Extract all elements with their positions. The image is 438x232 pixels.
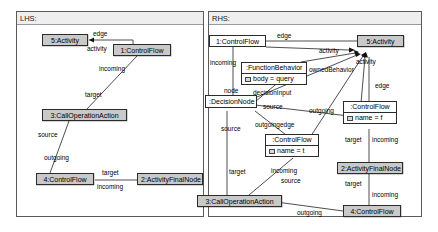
rhs-panel-title: RHS: xyxy=(212,13,230,24)
lhs-panel-header xyxy=(17,12,203,25)
rhs-label-target-left: target xyxy=(229,168,246,176)
rhs-functionbehavior-name: :FunctionBehavior xyxy=(242,63,306,74)
lhs-panel-title: LHS: xyxy=(20,13,37,24)
rhs-node-activityfinalnode-2[interactable]: 2:ActivityFinalNode xyxy=(337,162,403,174)
rhs-label-ownedbehavior: ownedBehavior xyxy=(309,66,354,74)
rhs-controlflow-t-attribute: name = t xyxy=(266,146,318,156)
lhs-node-controlflow-4[interactable]: 4:ControlFlow xyxy=(36,173,94,185)
rhs-node-controlflow-4[interactable]: 4:ControlFlow xyxy=(343,205,401,217)
rhs-label-edge-top: edge xyxy=(277,32,291,40)
rhs-label-incoming-right-1: incoming xyxy=(372,136,398,144)
lhs-label-activity: activity xyxy=(87,45,107,53)
attribute-bullet-icon xyxy=(245,77,251,82)
rhs-node-controlflow-1[interactable]: 1:ControlFlow xyxy=(209,35,266,47)
rhs-label-source-mid: source xyxy=(263,103,283,111)
rhs-label-outgoingedge: outgoingedge xyxy=(255,121,294,129)
lhs-node-activityfinalnode-2[interactable]: 2:ActivityFinalNode xyxy=(137,173,203,185)
lhs-label-incoming-1: incoming xyxy=(99,65,125,73)
rhs-panel: RHS: xyxy=(208,11,422,217)
rhs-label-incoming-mid: incoming xyxy=(271,167,297,175)
rhs-panel-body: 1:ControlFlow 5:Activity :FunctionBehavi… xyxy=(209,25,421,216)
rhs-label-activity-1: activity xyxy=(319,47,339,55)
diagram-root: LHS: 5:Activity 1:ControlFlow 3:CallOper… xyxy=(0,0,438,232)
lhs-label-outgoing-1: outgoing xyxy=(44,154,69,162)
rhs-controlflow-f-name: :ControlFlow xyxy=(344,102,396,113)
rhs-label-activity-2: activity xyxy=(356,58,376,66)
lhs-label-source-1: source xyxy=(38,131,58,139)
rhs-label-incoming-right-2: incoming xyxy=(372,191,398,199)
attribute-bullet-icon xyxy=(269,149,275,154)
lhs-panel: LHS: 5:Activity 1:ControlFlow 3:CallOper… xyxy=(16,11,204,217)
rhs-node-calloperationaction-3[interactable]: 3:CallOperationAction xyxy=(197,195,282,207)
rhs-panel-header xyxy=(209,12,421,25)
rhs-label-target-right: target xyxy=(345,180,362,188)
rhs-node-activity-5[interactable]: 5:Activity xyxy=(357,35,404,47)
rhs-node-controlflow-f[interactable]: :ControlFlow name = f xyxy=(343,101,397,124)
lhs-label-target-1: target xyxy=(85,91,102,99)
lhs-panel-body: 5:Activity 1:ControlFlow 3:CallOperation… xyxy=(17,25,203,216)
rhs-node-functionbehavior[interactable]: :FunctionBehavior body = query xyxy=(241,62,307,85)
rhs-node-decisionnode[interactable]: :DecisionNode xyxy=(205,95,257,108)
lhs-label-target-2: target xyxy=(102,169,119,177)
rhs-label-edge-right: edge xyxy=(375,82,389,90)
lhs-node-activity-5[interactable]: 5:Activity xyxy=(42,34,88,46)
rhs-label-outgoing-bottom: outgoing xyxy=(297,209,322,217)
rhs-label-decisioninput: decisionInput xyxy=(253,89,291,97)
rhs-functionbehavior-attribute: body = query xyxy=(242,74,306,84)
rhs-controlflow-f-attribute: name = f xyxy=(344,113,396,123)
rhs-label-node: node xyxy=(224,87,238,95)
rhs-label-source-left: source xyxy=(221,125,241,133)
rhs-label-incoming-left: incoming xyxy=(210,59,236,67)
lhs-node-calloperationaction-3[interactable]: 3:CallOperationAction xyxy=(42,109,127,121)
rhs-controlflow-t-name: :ControlFlow xyxy=(266,135,318,146)
lhs-label-incoming-2: incoming xyxy=(97,183,123,191)
rhs-label-outgoing-mid: outgoing xyxy=(309,107,334,115)
attribute-bullet-icon xyxy=(347,116,353,121)
rhs-label-source-bottom: source xyxy=(281,177,301,185)
lhs-node-controlflow-1[interactable]: 1:ControlFlow xyxy=(113,44,171,56)
lhs-label-edge: edge xyxy=(93,30,107,38)
rhs-label-target-mid: target xyxy=(345,136,362,144)
rhs-node-controlflow-t[interactable]: :ControlFlow name = t xyxy=(265,134,319,157)
